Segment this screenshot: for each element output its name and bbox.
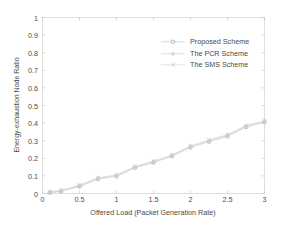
x-axis-title: Offered Load (Packet Generation Rate) (42, 208, 264, 217)
data-point (171, 51, 176, 56)
y-axis-title: Energy-exhaustion Node Ratio (13, 25, 21, 185)
legend-label: The SMS Scheme (190, 59, 248, 71)
series-2 (48, 119, 267, 195)
plus-marker-icon (160, 48, 186, 60)
chart-legend: Proposed SchemeThe PCR SchemeThe SMS Sch… (152, 36, 264, 72)
legend-label: Proposed Scheme (190, 36, 249, 48)
x-tick-label: 0.5 (65, 195, 95, 204)
series-3 (48, 118, 267, 193)
cross-marker-icon (160, 59, 186, 71)
x-tick-label: 2.5 (213, 195, 243, 204)
series-line (50, 120, 265, 191)
y-tick-label: 1 (10, 13, 38, 22)
legend-label: The PCR Scheme (190, 48, 248, 60)
legend-item-1: Proposed Scheme (152, 36, 264, 48)
legend-item-2: The PCR Scheme (152, 48, 264, 60)
dot-marker-icon (160, 36, 186, 48)
x-tick-label: 2 (176, 195, 206, 204)
x-tick-label: 1 (102, 195, 132, 204)
x-tick-label: 0 (28, 195, 58, 204)
chart-figure: 00.10.20.30.40.50.60.70.80.91 00.511.522… (0, 0, 282, 238)
x-tick-label: 1.5 (139, 195, 169, 204)
legend-item-3: The SMS Scheme (152, 59, 264, 71)
x-tick-label: 3 (250, 195, 280, 204)
